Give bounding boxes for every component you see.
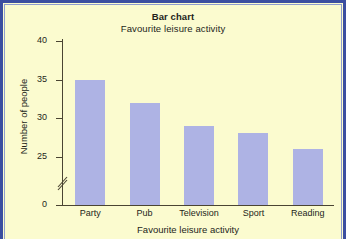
x-axis-line [62,205,334,206]
bar [130,103,160,205]
chart-title: Bar chart [3,11,343,22]
bar [238,133,268,205]
chart-subtitle: Favourite leisure activity [3,23,343,34]
x-axis-tick-label: Sport [226,208,280,218]
x-axis-tick-label: Pub [117,208,171,218]
y-axis-tick [56,205,63,206]
y-axis-tick [56,41,63,42]
y-axis-title: Number of people [18,51,29,183]
chart-figure-frame: Bar chart Favourite leisure activity 025… [0,0,346,239]
x-axis-tick-labels: PartyPubTelevisionSportReading [63,208,335,222]
x-axis-title: Favourite leisure activity [43,224,333,235]
y-axis-tick-label: 0 [7,200,47,209]
x-axis-tick-label: Reading [281,208,335,218]
x-axis-tick-label: Television [172,208,226,218]
bars-container [63,39,335,205]
y-axis-tick [56,118,63,119]
y-axis-tick [56,80,63,81]
x-axis-tick-label: Party [63,208,117,218]
y-axis-tick [56,157,63,158]
bar [75,80,105,206]
bar [184,126,214,205]
y-axis-tick-label: 40 [7,36,47,45]
bar [293,149,323,205]
